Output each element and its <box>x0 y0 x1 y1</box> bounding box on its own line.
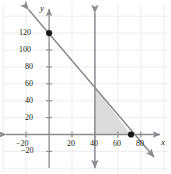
y-tick-label-60: 60 <box>25 80 33 88</box>
y-tick-label-80: 80 <box>25 63 33 71</box>
y-intercept-point <box>46 30 52 36</box>
x-tick-label-60: 60 <box>113 140 121 148</box>
x-tick-label-neg20: −20 <box>16 140 29 148</box>
y-tick-label-120: 120 <box>19 29 31 37</box>
x-tick-label-20: 20 <box>67 140 75 148</box>
y-axis-label: y <box>40 4 44 13</box>
x-axis-label: x <box>161 138 165 147</box>
graph-figure: 120 100 80 60 40 20 −20 −20 20 40 60 80 … <box>0 0 171 174</box>
x-intercept-point <box>128 131 134 137</box>
x-tick-label-80: 80 <box>136 140 144 148</box>
y-tick-label-neg20: −20 <box>21 147 34 155</box>
y-tick-label-40: 40 <box>25 97 33 105</box>
y-tick-label-20: 20 <box>25 114 33 122</box>
x-tick-label-40: 40 <box>90 140 98 148</box>
y-tick-label-100: 100 <box>19 46 31 54</box>
